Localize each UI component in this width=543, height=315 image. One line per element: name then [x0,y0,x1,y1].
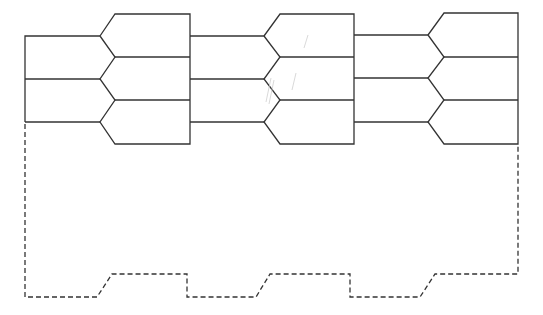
fold-template-diagram [0,0,543,315]
unit-2 [190,14,354,144]
pencil-marks [266,35,308,104]
unit-1 [25,14,190,144]
diagram-canvas [0,0,543,315]
unit-3 [354,13,518,144]
dashed-outline [25,124,518,297]
solid-panels [25,13,518,144]
